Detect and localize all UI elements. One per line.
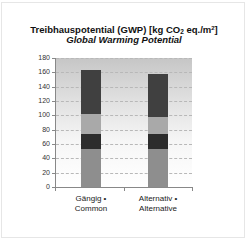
bar-segment [148, 117, 168, 134]
bar-segment [148, 149, 168, 187]
x-label-line1: Gängig • [56, 194, 126, 204]
y-tick-label: 100 [20, 111, 50, 119]
y-tick [52, 173, 56, 174]
y-tick-label: 60 [20, 140, 50, 148]
y-tick-label: 80 [20, 126, 50, 134]
bar-segment [148, 74, 168, 117]
y-tick [52, 101, 56, 102]
gridline [56, 144, 192, 145]
gridline [56, 87, 192, 88]
gridline [56, 72, 192, 73]
gridline [56, 173, 192, 174]
x-label-common: Gängig • Common [56, 194, 126, 214]
y-tick-label: 0 [20, 183, 50, 191]
y-tick-label: 160 [20, 68, 50, 76]
bar-segment [148, 134, 168, 149]
x-tick [124, 187, 125, 191]
y-tick [52, 115, 56, 116]
x-label-line2: Common [56, 204, 126, 214]
y-tick-label: 180 [20, 54, 50, 62]
gridline [56, 58, 192, 59]
y-tick-label: 20 [20, 169, 50, 177]
x-tick [55, 187, 56, 191]
gridline [56, 115, 192, 116]
y-tick [52, 87, 56, 88]
x-label-line1: Alternativ • [123, 194, 193, 204]
y-tick [52, 158, 56, 159]
bar-segment [81, 70, 101, 114]
gridline [56, 158, 192, 159]
y-tick-label: 40 [20, 154, 50, 162]
y-axis [55, 58, 56, 188]
x-tick [192, 187, 193, 191]
chart-subtitle: Global Warming Potential [0, 34, 248, 45]
bar-segment [81, 149, 101, 187]
y-tick [52, 130, 56, 131]
bar-segment [81, 134, 101, 149]
gridline [56, 130, 192, 131]
gridline [56, 101, 192, 102]
y-tick [52, 58, 56, 59]
plot-area [56, 58, 192, 187]
y-tick [52, 72, 56, 73]
y-tick-label: 140 [20, 83, 50, 91]
y-tick [52, 144, 56, 145]
y-tick-label: 120 [20, 97, 50, 105]
x-label-line2: Alternative [123, 204, 193, 214]
bar-segment [81, 114, 101, 134]
x-label-alternative: Alternativ • Alternative [123, 194, 193, 214]
